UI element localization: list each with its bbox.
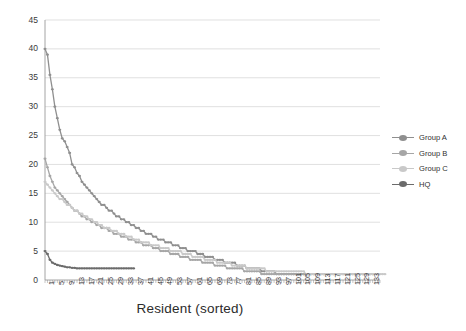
series-marker [137,238,140,240]
series-marker [56,117,59,119]
y-axis-tick-label: 40 [12,44,38,53]
x-axis-tick-label: 105 [304,273,311,285]
series-marker [68,204,71,206]
series-marker [112,212,115,214]
x-axis-tick-label: 21 [97,277,104,285]
series-marker [228,262,231,264]
x-axis-tick-label: 93 [275,277,282,285]
series-marker [56,195,59,197]
legend-swatch-icon [392,164,414,173]
series-marker [149,233,152,235]
series-marker [186,256,189,258]
series-marker [201,256,204,258]
chart-legend: Group AGroup BGroup CHQ [392,131,466,193]
legend-label: Group A [419,133,447,142]
legend-label: Group B [419,149,447,158]
legend-item-hq[interactable]: HQ [392,178,466,191]
x-axis-tick-label: 13 [78,277,85,285]
x-axis-tick-label: 113 [324,274,331,285]
legend-marker-icon [399,135,407,141]
series-marker [48,74,51,76]
series-marker [95,198,98,200]
x-axis-tick-label: 89 [265,277,272,285]
series-marker [88,189,91,191]
legend-marker-icon [399,150,407,156]
series-marker [51,88,54,90]
y-axis-tick-label: 20 [12,160,38,169]
legend-swatch-icon [392,133,414,142]
legend-swatch-icon [392,180,414,189]
series-marker [51,189,54,191]
series-marker [46,166,49,168]
series-marker [53,192,56,194]
series-marker [199,259,202,261]
series-marker [213,259,216,261]
series-marker [258,270,261,272]
series-marker [73,166,76,168]
series-marker [75,172,78,174]
series-marker [100,224,103,226]
series-marker [58,129,61,131]
x-axis-title: Resident (sorted) [0,301,380,316]
series-marker [93,195,96,197]
x-axis-tick-label: 81 [245,277,252,285]
series-marker [46,184,49,186]
x-axis-tick-label: 33 [127,277,134,285]
series-marker [157,244,160,246]
x-axis-tick-label: 129 [363,273,370,285]
y-axis-tick-label: 30 [12,102,38,111]
series-marker [211,256,214,258]
series-marker [132,224,135,226]
series-marker [142,230,145,232]
series-marker [162,238,165,240]
x-axis-tick-label: 29 [117,277,124,285]
series-marker [56,189,59,191]
x-axis-tick-label: 25 [107,277,114,285]
series-marker [75,210,78,212]
y-axis-tick-label: 5 [12,247,38,256]
y-axis-tick-label: 15 [12,189,38,198]
x-axis-tick-label: 69 [216,277,223,285]
x-axis-tick-label: 133 [373,273,380,285]
series-marker [85,186,88,188]
series-marker [241,267,244,269]
legend-label: Group C [419,164,448,173]
x-axis-tick-label: 61 [196,277,203,285]
x-axis-tick-label: 101 [295,273,302,285]
x-axis-tick-label: 17 [88,277,95,285]
series-marker [61,198,64,200]
series-marker [90,218,93,220]
series-marker [98,201,101,203]
series-marker [122,233,125,235]
y-axis-tick-label: 10 [12,218,38,227]
series-marker [58,192,61,194]
series-marker [46,253,49,255]
legend-swatch-icon [392,149,414,158]
x-axis-tick-label: 125 [354,273,361,285]
y-axis-tick-label: 45 [12,16,38,25]
series-marker [211,262,214,264]
x-axis-tick-label: 41 [147,277,154,285]
series-marker [43,48,46,50]
series-marker [53,106,56,108]
x-axis-tick-label: 109 [314,273,321,285]
legend-item-group-c[interactable]: Group C [392,162,466,175]
chart-container: 051015202530354045 159131721252933374145… [0,0,466,331]
series-marker [127,221,130,223]
series-line-group-a [45,49,309,274]
series-marker [154,236,157,238]
x-axis-tick-label: 117 [334,274,341,285]
legend-marker-icon [399,181,407,187]
series-marker [263,267,266,269]
legend-item-group-a[interactable]: Group A [392,131,466,144]
series-marker [43,181,46,183]
series-marker [176,244,179,246]
legend-item-group-b[interactable]: Group B [392,147,466,160]
x-axis-tick-label: 121 [344,273,351,285]
x-axis-tick-label: 9 [68,281,75,285]
series-marker [194,250,197,252]
series-marker [66,146,69,148]
x-axis-tick-label: 65 [206,277,213,285]
x-axis-tick-label: 53 [176,277,183,285]
series-marker [71,163,74,165]
